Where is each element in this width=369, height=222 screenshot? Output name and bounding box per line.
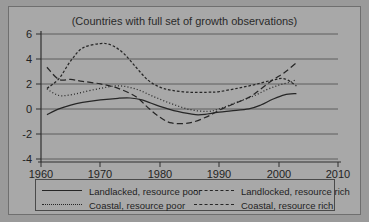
axis-lines [38,31,341,162]
series-line-3 [47,63,296,124]
series-line-0 [47,94,296,115]
legend-item-landlocked-resource-rich[interactable]: Landlocked, resource rich [194,184,350,198]
y-tick-label: 2 [26,78,32,90]
legend-item-coastal-resource-rich[interactable]: Coastal, resource rich [194,198,333,212]
y-tick-label: 4 [26,53,32,65]
legend-label: Landlacked, resource poor [89,186,202,197]
gridlines [41,34,338,159]
legend-swatch-dotted-icon [42,204,82,206]
legend-label: Landlocked, resource rich [241,186,350,197]
y-tick-label: 0 [26,103,32,115]
legend-label: Coastal, resource rich [241,200,333,211]
y-axis-tick-labels: 6 4 2 0 -2 -4 [22,28,32,165]
legend-swatch-fine-dashed-icon [194,190,234,192]
legend-swatch-solid-icon [42,190,82,192]
y-tick-label: 6 [26,28,32,40]
y-tick-label: -2 [22,128,32,140]
legend-item-landlocked-resource-poor[interactable]: Landlacked, resource poor [42,184,202,198]
legend-item-coastal-resource-poor[interactable]: Coastal, resource poor [42,198,185,212]
x-axis-ticks [41,162,338,167]
legend-label: Coastal, resource poor [89,200,185,211]
y-axis-ticks [36,34,41,159]
figure-panel: (Countries with full set of growth obser… [8,6,361,215]
chart-legend: Landlacked, resource poor Landlocked, re… [35,179,335,211]
legend-swatch-dashed-icon [194,204,234,206]
y-tick-label: -4 [22,153,32,165]
series-line-2 [47,43,296,92]
